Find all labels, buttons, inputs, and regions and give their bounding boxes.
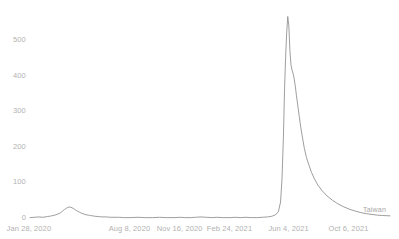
y-tick-label-400: 400: [0, 72, 26, 80]
series-label-taiwan: Taiwan: [363, 206, 386, 214]
y-tick-label-0: 0: [0, 214, 26, 222]
chart-plot-area: [0, 0, 399, 239]
x-tick-label-0: Jan 28, 2020: [7, 225, 52, 233]
x-tick-label-5: Oct 6, 2021: [329, 225, 369, 233]
x-tick-label-2: Nov 16, 2020: [157, 225, 203, 233]
line-chart: 0100200300400500 Jan 28, 2020Aug 8, 2020…: [0, 0, 399, 239]
y-tick-label-300: 300: [0, 107, 26, 115]
x-tick-label-3: Feb 24, 2021: [207, 225, 252, 233]
y-tick-label-200: 200: [0, 143, 26, 151]
y-tick-label-100: 100: [0, 178, 26, 186]
series-line-taiwan: [30, 17, 390, 218]
x-tick-label-4: Jun 4, 2021: [268, 225, 308, 233]
y-tick-label-500: 500: [0, 36, 26, 44]
x-tick-label-1: Aug 8, 2020: [109, 225, 151, 233]
